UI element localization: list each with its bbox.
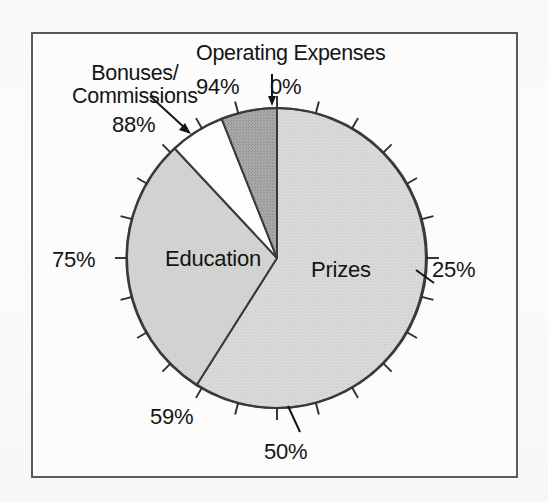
tick-label-59-percent: 59% xyxy=(150,405,193,429)
pie-chart-figure: Operating Expenses Bonuses/ Commissions … xyxy=(0,0,548,502)
slice-label-bonuses-line2: Commissions xyxy=(72,85,198,108)
slice-label-prizes: Prizes xyxy=(311,258,371,282)
slice-label-bonuses-commissions: Bonuses/ Commissions xyxy=(72,62,198,108)
tick-label-25-percent: 25% xyxy=(432,258,475,282)
tick-label-94-percent: 94% xyxy=(196,75,239,99)
tick-label-88-percent: 88% xyxy=(112,113,155,137)
slice-label-bonuses-line1: Bonuses/ xyxy=(72,62,198,85)
leader-line-50-percent xyxy=(288,406,300,432)
tick-label-0-percent: 0% xyxy=(270,75,301,99)
tick-label-75-percent: 75% xyxy=(52,248,95,272)
slice-label-operating-expenses: Operating Expenses xyxy=(196,42,385,65)
slice-label-education: Education xyxy=(165,247,261,271)
tick-label-50-percent: 50% xyxy=(264,440,307,464)
